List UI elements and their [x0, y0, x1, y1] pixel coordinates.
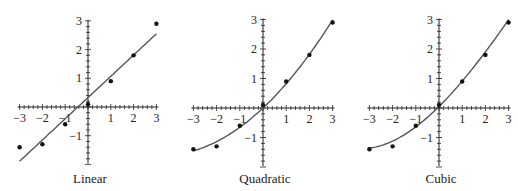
x-tick-label: 1 — [283, 112, 289, 126]
data-point — [40, 142, 44, 146]
data-point — [460, 79, 464, 83]
data-point — [261, 103, 265, 107]
panel-title: Quadratic — [239, 171, 290, 186]
data-point — [17, 145, 21, 149]
data-point — [284, 79, 288, 83]
quadratic-panel: −3−2−1123−1123Quadratic — [187, 13, 336, 187]
data-point — [214, 144, 218, 148]
y-tick-label: −1 — [420, 131, 433, 145]
y-tick-label: 1 — [427, 72, 433, 86]
y-tick-label: 3 — [251, 13, 257, 27]
y-tick-label: 2 — [427, 42, 433, 56]
x-tick-label: −2 — [386, 112, 399, 126]
data-point — [238, 124, 242, 128]
x-tick-label: 3 — [153, 111, 159, 125]
data-point — [109, 79, 113, 83]
x-tick-label: −3 — [187, 112, 200, 126]
data-point — [154, 22, 158, 26]
x-tick-label: −2 — [36, 111, 49, 125]
x-tick-label: −3 — [363, 112, 376, 126]
y-tick-label: 1 — [76, 71, 82, 85]
panel-title: Linear — [73, 171, 108, 186]
x-tick-label: 3 — [506, 112, 512, 126]
y-tick-label: 2 — [251, 42, 257, 56]
y-tick-label: 3 — [427, 13, 433, 27]
chart-panels: −3−2−1123−1123Linear −3−2−1123−1123Quadr… — [0, 0, 518, 191]
linear-panel: −3−2−1123−1123Linear — [13, 14, 159, 186]
x-tick-label: 1 — [459, 112, 465, 126]
data-point — [483, 53, 487, 57]
x-tick-label: 2 — [482, 112, 488, 126]
y-tick-label: 1 — [251, 72, 257, 86]
data-point — [131, 53, 135, 57]
data-point — [191, 147, 195, 151]
data-point — [437, 103, 441, 107]
data-point — [367, 147, 371, 151]
y-tick-label: 3 — [76, 14, 82, 28]
panel-title: Cubic — [425, 171, 456, 186]
data-point — [307, 53, 311, 57]
x-tick-label: 1 — [108, 111, 114, 125]
data-point — [506, 20, 510, 24]
data-point — [330, 20, 334, 24]
y-tick-label: −1 — [69, 129, 82, 143]
x-tick-label: 2 — [131, 111, 137, 125]
cubic-panel: −3−2−1123−1123Cubic — [363, 13, 512, 187]
data-point — [414, 124, 418, 128]
x-tick-label: 3 — [330, 112, 336, 126]
x-tick-label: −2 — [210, 112, 223, 126]
data-point — [390, 144, 394, 148]
y-tick-label: 2 — [76, 43, 82, 57]
x-tick-label: 2 — [306, 112, 312, 126]
data-point — [86, 102, 90, 106]
data-point — [63, 122, 67, 126]
x-tick-label: −3 — [13, 111, 26, 125]
y-tick-label: −1 — [244, 131, 257, 145]
